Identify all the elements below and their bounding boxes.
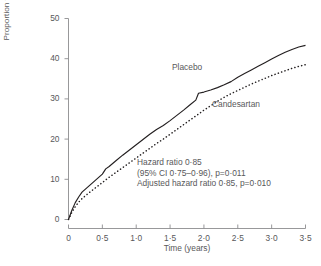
series-path-candesartan (69, 65, 306, 220)
x-tick-label: 3·0 (257, 233, 287, 243)
y-tick-label: 30 (36, 93, 60, 103)
axes (65, 19, 306, 229)
y-tick-label: 0 (36, 214, 60, 224)
x-tick-label: 3·5 (291, 233, 321, 243)
x-tick-label: 1·5 (155, 233, 185, 243)
x-tick-label: 2·0 (189, 233, 219, 243)
series-label-candesartan: Candesartan (212, 99, 260, 109)
annotation-line-adjusted-hazard-ratio: Adjusted hazard ratio 0·85, p=0·010 (137, 178, 271, 189)
statistics-annotation: Hazard ratio 0·85 (95% CI 0·75–0·96), p=… (137, 157, 271, 189)
annotation-line-hazard-ratio: Hazard ratio 0·85 (137, 157, 271, 168)
y-tick-label: 20 (36, 134, 60, 144)
y-axis-title: Proportion with cardiovascular death or … (2, 0, 32, 52)
annotation-line-confidence-interval: (95% CI 0·75–0·96), p=0·011 (137, 168, 271, 179)
survival-curve-chart: Proportion with cardiovascular death or … (0, 0, 321, 266)
y-tick-label: 40 (36, 53, 60, 63)
x-tick-label: 0 (54, 233, 84, 243)
x-tick-label: 1·0 (121, 233, 151, 243)
series-label-placebo: Placebo (172, 62, 202, 72)
x-tick-label: 2·5 (223, 233, 253, 243)
x-tick-label: 0·5 (87, 233, 117, 243)
y-tick-label: 10 (36, 174, 60, 184)
y-tick-label: 50 (36, 13, 60, 23)
x-axis-title: Time (years) (68, 243, 306, 253)
